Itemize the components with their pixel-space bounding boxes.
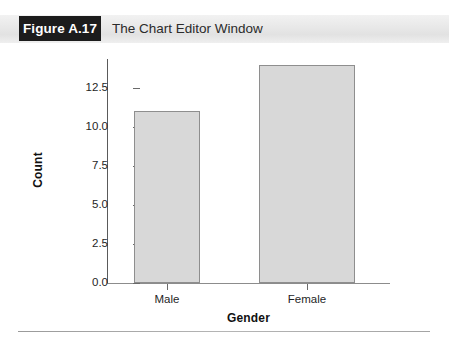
bar-female[interactable] bbox=[259, 65, 355, 283]
x-tick-label-male: Male bbox=[112, 293, 222, 305]
footer-divider bbox=[18, 331, 430, 332]
y-tick-label: 10.0 bbox=[46, 120, 108, 132]
x-axis-title: Gender bbox=[107, 311, 390, 325]
x-tick-female bbox=[307, 284, 308, 290]
y-tick-label: 7.5 bbox=[46, 159, 108, 171]
y-tick-2-5: 2.5 bbox=[32, 244, 108, 245]
figure-number-label: Figure A.17 bbox=[19, 16, 101, 41]
x-axis-line bbox=[107, 283, 390, 284]
y-tick-label: 12.5 bbox=[46, 81, 108, 93]
figure-caption: The Chart Editor Window bbox=[112, 16, 263, 41]
x-tick-male bbox=[167, 284, 168, 290]
plot-area: 12.5 10.0 7.5 5.0 2.5 0.0 Count Male Fe bbox=[0, 45, 449, 320]
y-tick-label: 0.0 bbox=[46, 276, 108, 288]
y-tick-0-0: 0.0 bbox=[32, 283, 108, 284]
y-tick-label: 5.0 bbox=[46, 198, 108, 210]
y-axis-title: Count bbox=[31, 130, 45, 210]
bar-male[interactable] bbox=[134, 111, 200, 283]
x-tick-label-female: Female bbox=[252, 293, 362, 305]
y-tick-10-0: 10.0 bbox=[32, 127, 108, 128]
y-tick-12-5: 12.5 bbox=[32, 88, 108, 89]
bar-chart: 12.5 10.0 7.5 5.0 2.5 0.0 Count Male Fe bbox=[0, 45, 449, 320]
y-tick-label: 2.5 bbox=[46, 237, 108, 249]
